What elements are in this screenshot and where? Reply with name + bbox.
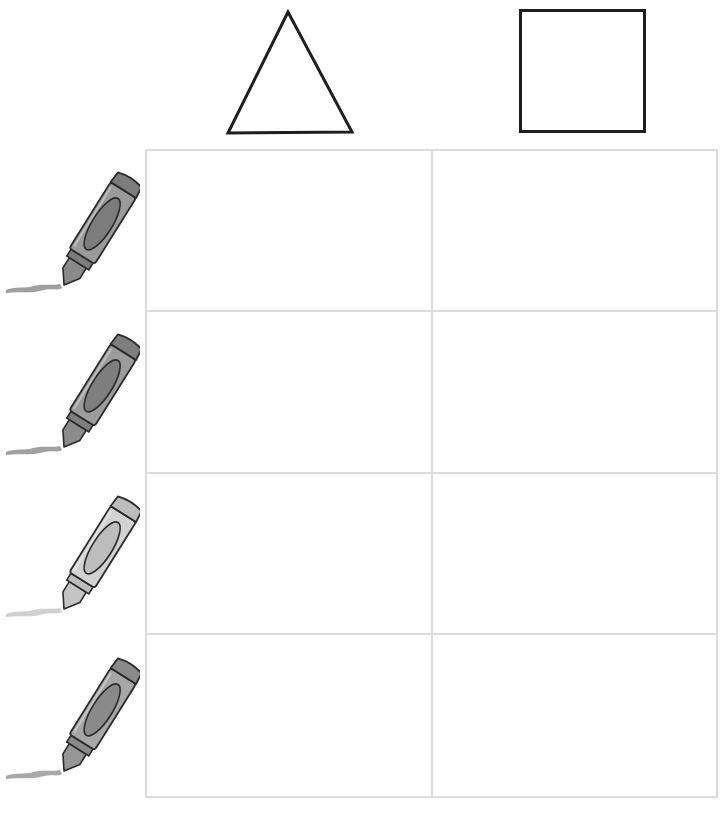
crayon-icon [0, 322, 140, 462]
grid-cell-r1-triangle[interactable] [147, 151, 433, 312]
grid-cell-r3-square[interactable] [433, 474, 716, 635]
crayon-icon [0, 160, 140, 300]
grid-cell-r4-triangle[interactable] [147, 635, 433, 796]
grid-cell-r1-square[interactable] [433, 151, 716, 312]
crayon-icon [0, 646, 140, 786]
grid-cell-r2-square[interactable] [433, 312, 716, 473]
square-icon [515, 5, 651, 137]
crayon-icon [0, 484, 140, 624]
shape-header [0, 0, 728, 145]
grid-cell-r3-triangle[interactable] [147, 474, 433, 635]
grid-cell-r4-square[interactable] [433, 635, 716, 796]
grid-cell-r2-triangle[interactable] [147, 312, 433, 473]
triangle-icon [220, 5, 360, 140]
sorting-grid [145, 149, 718, 798]
